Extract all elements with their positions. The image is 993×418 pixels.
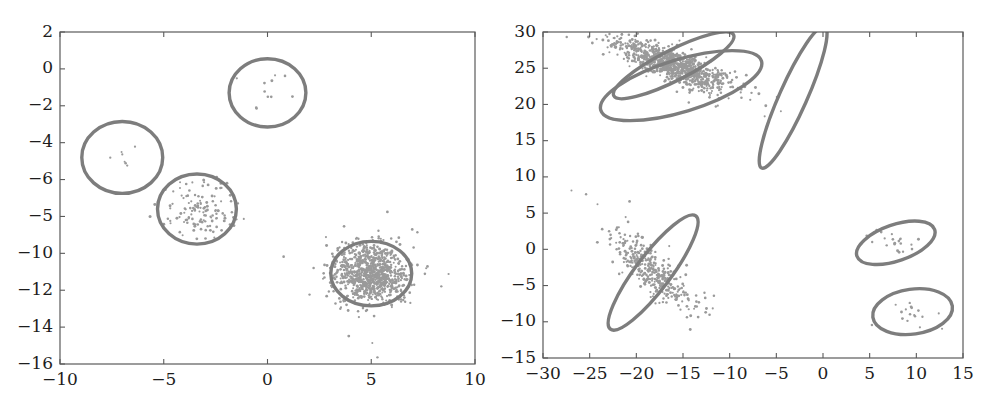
x-tick-label: 5 [366,369,377,389]
y-tick-label: 25 [514,57,536,77]
y-tick-label: 5 [525,202,536,222]
axes-frame [543,32,963,358]
y-tick-label: 15 [514,129,536,149]
y-tick-label: 2 [42,21,53,41]
y-tick-label: −10 [17,242,53,262]
cluster-ellipse [229,59,306,127]
cluster-ellipse [870,284,956,340]
cluster-ellipse [158,174,237,244]
axis-ticks: 20−2−4−6−5−10−12−14−16−10−50510 [17,21,486,389]
y-tick-label: −10 [500,310,536,330]
x-tick-label: 0 [818,363,829,383]
scatter-points [559,13,943,367]
y-tick-label: 20 [514,93,536,113]
scatter-points [109,74,450,358]
y-tick-label: −14 [17,316,53,336]
y-tick-label: −12 [17,279,53,299]
x-tick-label: −20 [618,363,654,383]
axis-ticks: 302520151050−5−10−15−30−25−20−15−10−5051… [500,21,974,383]
cluster-ellipse [82,121,163,193]
left-scatter-panel: 20−2−4−6−5−10−12−14−16−10−50510 [0,0,497,418]
cluster-ellipse [749,21,837,174]
y-tick-label: 0 [42,57,53,77]
y-tick-label: 0 [525,238,536,258]
x-tick-label: 5 [864,363,875,383]
x-tick-label: −10 [712,363,748,383]
x-tick-label: −25 [572,363,608,383]
left-plot-svg: 20−2−4−6−5−10−12−14−16−10−50510 [0,0,497,418]
right-plot-svg: 302520151050−5−10−15−30−25−20−15−10−5051… [497,0,993,418]
cluster-ellipse [593,36,769,135]
y-tick-label: −5 [511,274,536,294]
y-tick-label: 30 [514,21,536,41]
x-tick-label: −5 [151,369,176,389]
y-tick-label: −4 [28,131,53,151]
y-tick-label: 10 [514,165,536,185]
x-tick-label: 15 [952,363,974,383]
x-tick-label: −10 [42,369,78,389]
plot-content [559,13,955,367]
y-tick-label: −5 [28,205,53,225]
plot-content [82,59,450,359]
axes-frame [60,32,475,364]
figure-container: 20−2−4−6−5−10−12−14−16−10−50510 30252015… [0,0,993,418]
x-tick-label: 10 [906,363,928,383]
x-tick-label: −5 [764,363,789,383]
x-tick-label: −15 [665,363,701,383]
right-scatter-panel: 302520151050−5−10−15−30−25−20−15−10−5051… [497,0,993,418]
x-tick-label: 0 [262,369,273,389]
y-tick-label: −2 [28,94,53,114]
cluster-ellipses [593,21,955,340]
x-tick-label: −30 [525,363,561,383]
y-tick-label: −6 [28,168,53,188]
x-tick-label: 10 [464,369,486,389]
